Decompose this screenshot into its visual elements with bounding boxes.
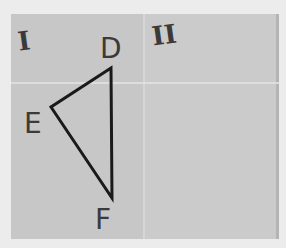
- vertex-label-E: E: [24, 110, 42, 138]
- vertex-label-F: F: [95, 206, 111, 234]
- triangle-DEF: [0, 0, 286, 248]
- vertex-label-D: D: [100, 35, 122, 63]
